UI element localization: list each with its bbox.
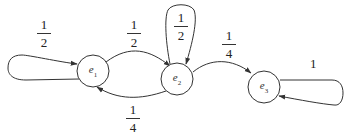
node-e3-label: e3 [260,79,268,94]
edge-label-e2-e1: 1 4 [126,103,140,134]
fraction-denominator: 4 [226,47,233,60]
edge-label-e1-e2: 1 2 [127,18,141,49]
fraction-numerator: 1 [178,11,185,24]
fraction-denominator: 2 [131,36,138,49]
edge-e3-e3-loop [279,80,343,105]
edge-e2-e3 [193,62,251,73]
edge-label-e1-e1: 1 2 [37,18,51,49]
node-e2-label: e2 [173,71,181,86]
node-e1-label: e1 [89,63,97,78]
node-e2-subscript: 2 [178,79,182,87]
fraction-numerator: 1 [131,18,138,31]
fraction-bar [37,33,51,34]
fraction-bar [174,26,188,27]
edge-e1-e2 [106,51,170,66]
fraction-bar [127,33,141,34]
fraction-denominator: 2 [41,36,48,49]
edge-e1-e1-loop [8,55,79,80]
node-e3-subscript: 3 [265,87,269,95]
edge-e2-e1 [97,87,166,97]
fraction-numerator: 1 [41,18,48,31]
fraction-denominator: 4 [130,121,137,134]
edge-label-e3-e3: 1 [310,57,317,70]
edge-label-e2-e2: 1 2 [174,11,188,42]
node-e1-subscript: 1 [94,71,98,79]
fraction-numerator: 1 [130,103,137,116]
fraction-numerator: 1 [226,29,233,42]
fraction-bar [222,44,236,45]
fraction-bar [126,118,140,119]
fraction-denominator: 2 [178,29,185,42]
edge-label-e2-e3: 1 4 [222,29,236,60]
